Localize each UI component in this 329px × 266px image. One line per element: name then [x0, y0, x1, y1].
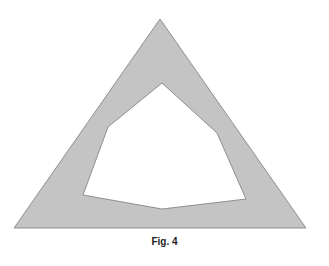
triangle-with-hexagonal-hole	[14, 19, 306, 228]
figure-diagram	[0, 0, 329, 266]
figure-caption: Fig. 4	[0, 236, 329, 247]
